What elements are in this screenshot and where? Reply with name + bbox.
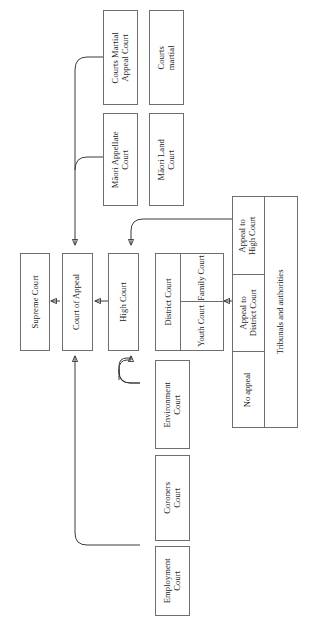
node-environment-court[interactable]: Environment Court bbox=[155, 360, 190, 449]
wire-courts-martial-appeal-to-court-of-appeal bbox=[75, 57, 103, 245]
node-court-of-appeal[interactable]: Court of Appeal bbox=[62, 253, 93, 351]
node-label: Court of Appeal bbox=[73, 274, 83, 330]
node-label: Youth Court bbox=[197, 305, 207, 347]
wire-maori-appellate-to-court-of-appeal bbox=[75, 157, 103, 170]
tribunals-group[interactable]: Appeal to High Court Appeal to District … bbox=[232, 196, 298, 428]
node-family-court[interactable]: Family Court bbox=[180, 254, 223, 301]
tribunals-label-text: Tribunals and authorities bbox=[276, 270, 286, 355]
node-coroners-court[interactable]: Coroners Court bbox=[155, 455, 190, 541]
node-youth-court[interactable]: Youth Court bbox=[180, 301, 223, 350]
tribunal-cell-no-appeal[interactable]: No appeal bbox=[233, 351, 264, 427]
node-label: Employment Court bbox=[163, 559, 183, 604]
node-label: Environment Court bbox=[163, 382, 183, 427]
node-label: Coroners Court bbox=[163, 482, 183, 514]
node-maori-appellate-court[interactable]: Māori Appellate Court bbox=[103, 113, 138, 206]
wire-employment-to-court-of-appeal bbox=[75, 356, 140, 545]
tribunal-cell-label: Appeal to High Court bbox=[239, 216, 259, 255]
wire-appeal-to-high-court bbox=[131, 219, 232, 245]
node-label: High Court bbox=[119, 282, 129, 322]
wire-environment-join bbox=[119, 358, 131, 380]
node-supreme-court[interactable]: Supreme Court bbox=[20, 253, 50, 351]
node-label: District Court bbox=[163, 279, 173, 326]
node-district-court-group[interactable]: District Court Family Court Youth Court bbox=[155, 253, 224, 351]
node-courts-martial[interactable]: Courts martial bbox=[149, 10, 184, 105]
wire-environment-to-high-court bbox=[119, 356, 140, 383]
court-hierarchy-diagram: Supreme Court Court of Appeal High Court… bbox=[0, 0, 310, 626]
tribunal-cell-label: Appeal to District Court bbox=[239, 290, 259, 337]
node-maori-land-court[interactable]: Māori Land Court bbox=[149, 113, 184, 206]
node-high-court[interactable]: High Court bbox=[108, 253, 139, 351]
node-employment-court[interactable]: Employment Court bbox=[155, 546, 190, 616]
node-label: Family Court bbox=[197, 255, 207, 301]
tribunal-cell-appeal-to-district-court[interactable]: Appeal to District Court bbox=[233, 274, 264, 351]
node-label: Māori Land Court bbox=[157, 139, 177, 180]
node-district-court[interactable]: District Court bbox=[156, 254, 180, 350]
node-label: Māori Appellate Court bbox=[111, 131, 131, 188]
tribunal-cell-label: No appeal bbox=[244, 372, 254, 407]
wire-environment-curve bbox=[119, 369, 140, 383]
node-label: Courts martial bbox=[157, 45, 177, 70]
node-label: Courts Martial Appeal Court bbox=[111, 32, 131, 83]
node-label: Supreme Court bbox=[30, 275, 40, 328]
node-courts-martial-appeal-court[interactable]: Courts Martial Appeal Court bbox=[103, 10, 138, 105]
tribunal-cell-appeal-to-high-court[interactable]: Appeal to High Court bbox=[233, 197, 264, 274]
tribunals-group-label: Tribunals and authorities bbox=[264, 197, 297, 427]
